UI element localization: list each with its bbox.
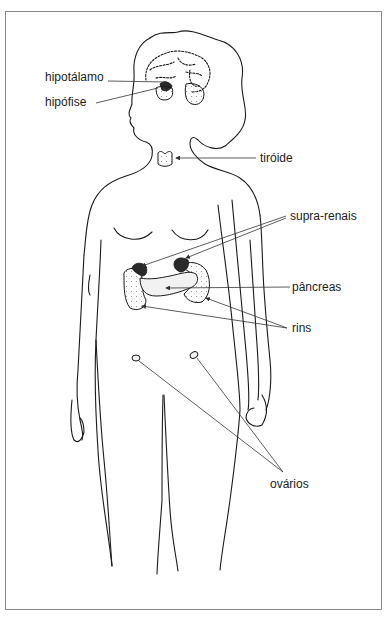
- left-ovary: [132, 355, 140, 361]
- label-pancreas: pâncreas: [292, 280, 341, 294]
- brain: [146, 51, 210, 104]
- abdominal-organs: [124, 258, 210, 310]
- body-diagram: [0, 0, 387, 621]
- label-supra-renais: supra-renais: [290, 209, 357, 223]
- label-hipofise: hipófise: [45, 95, 86, 109]
- label-hipotalamo: hipotálamo: [45, 70, 104, 84]
- label-rins: rins: [292, 321, 311, 335]
- thyroid-gland: [158, 151, 172, 166]
- label-ovarios: ovários: [270, 477, 309, 491]
- label-tiroide: tiróide: [260, 151, 293, 165]
